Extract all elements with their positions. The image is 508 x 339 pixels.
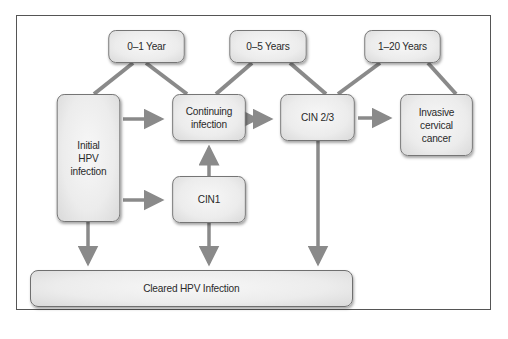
time-label-1-20-years: 1–20 Years (364, 30, 440, 63)
link-t1-continuing (146, 63, 187, 94)
time-label-text: 0–1 Year (127, 40, 165, 53)
link-t1-initial (94, 63, 133, 94)
time-label-text: 1–20 Years (378, 40, 427, 53)
link-t3-invasive (428, 63, 456, 94)
link-t2-continuing (216, 63, 252, 94)
node-label: Cleared HPV Infection (143, 282, 239, 295)
time-label-0-5-years: 0–5 Years (229, 30, 306, 63)
node-invasive-cervical-cancer: Invasive cervical cancer (400, 94, 473, 156)
node-continuing-infection: Continuing infection (172, 94, 246, 141)
link-t3-cin23 (338, 63, 380, 94)
node-label: CIN1 (198, 193, 220, 206)
node-cin-2-3: CIN 2/3 (280, 94, 355, 141)
node-label: CIN 2/3 (301, 111, 334, 124)
node-label: Initial HPV infection (70, 139, 106, 178)
node-label: Continuing infection (186, 105, 233, 131)
node-label: Invasive cervical cancer (419, 106, 455, 145)
node-cin1: CIN1 (172, 176, 246, 223)
time-label-0-1-year: 0–1 Year (108, 30, 184, 63)
node-cleared-hpv-infection: Cleared HPV Infection (30, 270, 353, 307)
node-initial-hpv-infection: Initial HPV infection (57, 94, 120, 222)
link-t2-cin23 (290, 63, 326, 94)
time-label-text: 0–5 Years (246, 40, 289, 53)
